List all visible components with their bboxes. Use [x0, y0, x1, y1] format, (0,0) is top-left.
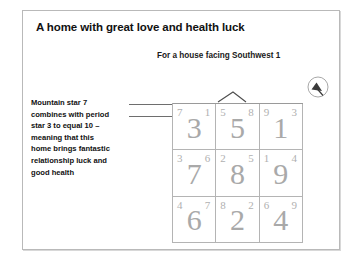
water-star: 3 — [291, 107, 297, 118]
period-star: 4 — [273, 205, 288, 235]
mountain-star: 5 — [220, 107, 226, 118]
mountain-star: 2 — [220, 153, 226, 164]
grid-cell: 4 7 6 — [173, 197, 216, 243]
mountain-star: 6 — [264, 200, 270, 211]
grid-cell: 7 1 3 — [173, 104, 216, 150]
water-star: 4 — [291, 153, 297, 164]
mountain-star: 1 — [264, 153, 270, 164]
period-star: 8 — [230, 159, 245, 189]
compass-icon — [304, 74, 332, 102]
mountain-star: 3 — [177, 153, 183, 164]
annotation-line: meaning that this — [31, 132, 135, 144]
diagram-page: A home with great love and health luck F… — [22, 10, 340, 250]
mountain-star: 7 — [177, 107, 183, 118]
period-star: 9 — [273, 159, 288, 189]
mountain-star: 4 — [177, 200, 183, 211]
page-title: A home with great love and health luck — [36, 21, 245, 33]
mountain-star: 9 — [264, 107, 270, 118]
period-star: 7 — [187, 159, 202, 189]
annotation-line: good health — [31, 167, 135, 179]
annotation-text: Mountain star 7 combines with period sta… — [31, 97, 135, 178]
period-star: 3 — [187, 113, 202, 143]
period-star: 2 — [230, 205, 245, 235]
annotation-line: Mountain star 7 — [31, 97, 135, 109]
annotation-line: home brings fantastic — [31, 143, 135, 155]
period-star: 1 — [273, 113, 288, 143]
water-star: 8 — [248, 107, 254, 118]
page-subtitle: For a house facing Southwest 1 — [157, 51, 280, 60]
period-star: 5 — [230, 113, 245, 143]
grid-cell: 8 2 2 — [216, 197, 259, 243]
water-star: 1 — [205, 107, 211, 118]
annotation-line: relationship luck and — [31, 155, 135, 167]
water-star: 9 — [291, 200, 297, 211]
grid-cell: 3 6 7 — [173, 150, 216, 196]
water-star: 6 — [205, 153, 211, 164]
house-facing-marker-icon — [216, 90, 250, 104]
annotation-line: star 3 to equal 10 – — [31, 120, 135, 132]
period-star: 6 — [187, 205, 202, 235]
grid-cell: 5 8 5 — [216, 104, 259, 150]
mountain-star: 8 — [220, 200, 226, 211]
grid-cell: 6 9 4 — [260, 197, 303, 243]
annotation-line: combines with period — [31, 109, 135, 121]
grid-cell: 2 5 8 — [216, 150, 259, 196]
water-star: 7 — [205, 200, 211, 211]
flying-star-grid: 7 1 3 5 8 5 9 3 1 3 6 7 2 5 8 1 4 9 — [172, 103, 303, 243]
grid-cell: 1 4 9 — [260, 150, 303, 196]
water-star: 5 — [248, 153, 254, 164]
water-star: 2 — [248, 200, 254, 211]
grid-cell: 9 3 1 — [260, 104, 303, 150]
